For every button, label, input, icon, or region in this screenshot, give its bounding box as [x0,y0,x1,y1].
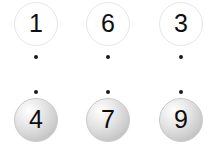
lower-dot-3 [179,90,183,94]
bottom-node-2-label: 7 [101,107,115,132]
upper-dot-1 [34,55,38,59]
node-column-1: 1 4 [0,0,72,146]
upper-dot-3 [179,55,183,59]
bottom-node-1-label: 4 [29,107,43,132]
upper-dot-2 [106,55,110,59]
top-node-3-label: 3 [174,11,188,36]
top-node-2[interactable]: 6 [86,2,130,46]
bottom-node-3[interactable]: 9 [159,98,203,142]
diagram-canvas: 1 4 6 7 3 9 [0,0,217,146]
top-node-2-label: 6 [101,11,115,36]
bottom-node-3-label: 9 [174,107,188,132]
node-column-3: 3 9 [145,0,217,146]
lower-dot-2 [106,90,110,94]
bottom-node-2[interactable]: 7 [86,98,130,142]
bottom-node-1[interactable]: 4 [14,98,58,142]
top-node-1[interactable]: 1 [14,2,58,46]
top-node-3[interactable]: 3 [159,2,203,46]
lower-dot-1 [34,90,38,94]
top-node-1-label: 1 [29,11,43,36]
node-column-2: 6 7 [72,0,144,146]
